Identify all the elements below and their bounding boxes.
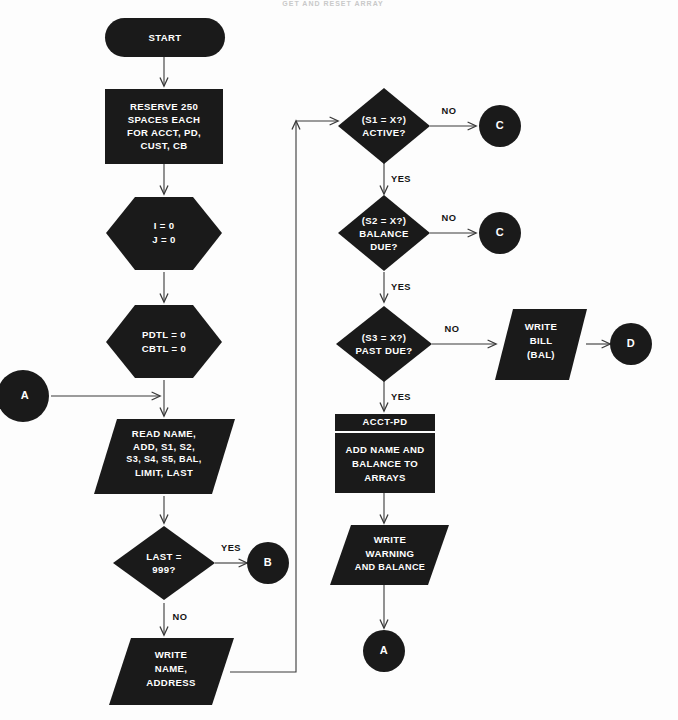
connector-d-label: D [627, 337, 635, 349]
pastdue-test-label-1: (S3 = X?) [362, 332, 406, 343]
node-reserve[interactable]: RESERVE 250 SPACES EACH FOR ACCT, PD, CU… [105, 89, 223, 164]
connector-b[interactable]: B [247, 542, 289, 584]
read-label-4: LIMIT, LAST [135, 467, 193, 478]
balance-test-label-3: DUE? [370, 241, 398, 252]
node-last-test[interactable]: LAST = 999? [113, 526, 215, 600]
balance-test-label-2: BALANCE [359, 228, 409, 239]
node-start[interactable]: START [105, 18, 225, 57]
acct-pd-label-2: BALANCE TO [352, 458, 418, 469]
connector-d[interactable]: D [610, 323, 652, 365]
read-label-1: READ NAME, [132, 428, 196, 439]
connector-a-bottom[interactable]: A [363, 630, 405, 672]
read-label-3: S3, S4, S5, BAL, [126, 454, 201, 464]
pastdue-test-label-2: PAST DUE? [356, 345, 413, 356]
edge-label-balance-no: NO [442, 213, 457, 223]
node-active-test[interactable]: (S1 = X?) ACTIVE? [338, 88, 430, 164]
node-balance-test[interactable]: (S2 = X?) BALANCE DUE? [338, 195, 430, 271]
write-name-label-2: NAME, [155, 663, 188, 674]
init-totals-label-2: CBTL = 0 [142, 343, 186, 354]
active-test-label-2: ACTIVE? [362, 127, 406, 138]
edge-writename-to-right-column [230, 121, 296, 672]
node-acct-pd[interactable]: ACCT-PD ADD NAME AND BALANCE TO ARRAYS [335, 414, 435, 493]
reserve-label-4: CUST, CB [140, 140, 187, 151]
edge-label-balance-yes: YES [391, 282, 411, 292]
edge-label-active-yes: YES [391, 174, 411, 184]
active-test-label-1: (S1 = X?) [362, 114, 406, 125]
last-test-label-2: 999? [152, 564, 175, 575]
write-bill-label-2: BILL [530, 335, 553, 346]
node-pastdue-test[interactable]: (S3 = X?) PAST DUE? [336, 306, 432, 382]
balance-test-label-1: (S2 = X?) [362, 215, 406, 226]
cropped-page-title: GET AND RESET ARRAY [258, 0, 408, 6]
acct-pd-label-1: ADD NAME AND [346, 444, 425, 455]
acct-pd-header-label: ACCT-PD [362, 416, 407, 427]
write-warning-label-3: AND BALANCE [355, 562, 426, 572]
node-write-warning[interactable]: WRITE WARNING AND BALANCE [330, 525, 449, 585]
write-warning-label-1: WRITE [374, 534, 407, 545]
init-ij-label-1: I = 0 [154, 220, 175, 231]
connector-b-label: B [264, 556, 272, 568]
start-label: START [148, 32, 181, 43]
write-name-label-1: WRITE [155, 649, 188, 660]
init-totals-label-1: PDTL = 0 [142, 329, 186, 340]
connector-a-left[interactable]: A [0, 370, 49, 422]
init-totals-preparation-shape [106, 305, 222, 378]
flowchart-canvas: GET AND RESET ARRAY [0, 0, 678, 720]
read-label-2: ADD, S1, S2, [133, 441, 195, 452]
node-init-totals[interactable]: PDTL = 0 CBTL = 0 [106, 305, 222, 378]
node-init-ij[interactable]: I = 0 J = 0 [106, 197, 222, 270]
reserve-label-2: SPACES EACH [128, 114, 200, 125]
connector-a-left-label: A [21, 389, 29, 401]
connector-a-bottom-label: A [380, 644, 388, 656]
write-warning-label-2: WARNING [366, 548, 415, 559]
connector-c-lower-label: C [496, 226, 504, 238]
write-name-label-3: ADDRESS [146, 677, 196, 688]
node-read[interactable]: READ NAME, ADD, S1, S2, S3, S4, S5, BAL,… [94, 419, 235, 494]
edge-label-last-no: NO [173, 612, 188, 622]
edge-label-pastdue-no: NO [445, 324, 460, 334]
connector-c-lower[interactable]: C [479, 212, 521, 254]
node-write-bill[interactable]: WRITE BILL (BAL) [495, 309, 587, 380]
reserve-label-3: FOR ACCT, PD, [127, 127, 201, 138]
connector-c-upper-label: C [496, 119, 504, 131]
edge-label-last-yes: YES [221, 543, 241, 553]
write-bill-label-1: WRITE [525, 321, 558, 332]
node-write-name[interactable]: WRITE NAME, ADDRESS [109, 638, 234, 705]
connector-c-upper[interactable]: C [479, 105, 521, 147]
flowchart-svg: START RESERVE 250 SPACES EACH FOR ACCT, … [0, 0, 678, 720]
acct-pd-label-3: ARRAYS [364, 472, 406, 483]
last-test-label-1: LAST = [146, 551, 181, 562]
write-bill-label-3: (BAL) [527, 349, 555, 360]
init-ij-label-2: J = 0 [152, 234, 175, 245]
edge-label-pastdue-yes: YES [391, 392, 411, 402]
edge-label-active-no: NO [442, 106, 457, 116]
reserve-label-1: RESERVE 250 [130, 101, 198, 112]
